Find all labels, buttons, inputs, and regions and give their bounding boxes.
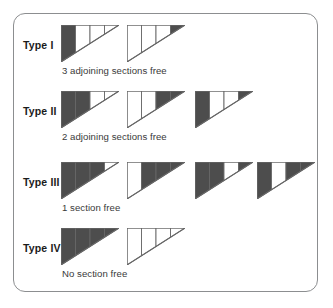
triangle-section-free: [90, 25, 105, 44]
triangle-diagram: [257, 162, 315, 199]
triangle-section-free: [224, 91, 239, 110]
triangle-section-occupied: [195, 162, 210, 199]
triangle-section-occupied: [90, 162, 105, 181]
type-label: Type IV: [23, 242, 61, 254]
row-caption: 1 section free: [62, 202, 120, 213]
type-label: Type III: [23, 176, 60, 188]
row-caption: No section free: [62, 268, 127, 279]
triangle-section-free: [127, 91, 142, 128]
triangle-section-free: [127, 228, 142, 265]
row-caption: 3 adjoining sections free: [62, 65, 167, 76]
triangle-section-free: [127, 162, 142, 199]
triangle-section-occupied: [195, 91, 210, 128]
triangle-section-free: [224, 162, 239, 181]
triangle-section-free: [156, 25, 171, 44]
triangle-section-occupied: [257, 162, 272, 199]
triangle-section-free: [156, 228, 171, 247]
triangle-diagram: [127, 162, 185, 199]
triangle-diagram: [127, 25, 185, 62]
triangle-diagram: [127, 228, 185, 265]
triangle-diagram: [195, 91, 253, 128]
row-caption: 2 adjoining sections free: [62, 131, 167, 142]
triangle-diagram: [61, 228, 119, 265]
triangle-diagram: [127, 91, 185, 128]
figure-panel: Type I3 adjoining sections freeType II2 …: [13, 13, 318, 292]
triangle-section-occupied: [61, 162, 76, 199]
triangle-section-occupied: [61, 91, 76, 128]
triangle-section-occupied: [286, 162, 301, 181]
triangle-diagram: [61, 25, 119, 62]
triangle-section-occupied: [156, 91, 171, 110]
triangle-section-occupied: [61, 25, 76, 62]
triangle-diagram: [61, 162, 119, 199]
type-label: Type I: [23, 39, 53, 51]
triangle-section-free: [90, 91, 105, 110]
triangle-diagram: [61, 91, 119, 128]
triangle-section-occupied: [61, 228, 76, 265]
triangle-section-occupied: [90, 228, 105, 247]
triangle-diagram: [195, 162, 253, 199]
triangle-section-occupied: [156, 162, 171, 181]
triangle-section-free: [127, 25, 142, 62]
type-label: Type II: [23, 105, 57, 117]
